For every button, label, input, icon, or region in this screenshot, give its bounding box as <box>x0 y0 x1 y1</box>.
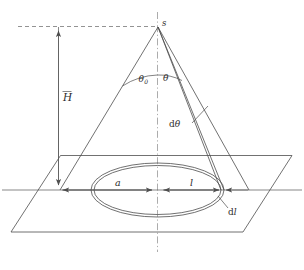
dtheta-label: dθ <box>169 119 181 129</box>
cone-right-generator <box>158 27 249 190</box>
figure-root: s θ0 θ H dθ a l dl <box>0 0 304 270</box>
ground-plane-parallelogram <box>11 156 292 233</box>
radius-dl-label: dl <box>228 207 237 217</box>
radius-l-label: l <box>190 177 193 188</box>
dl-leader-line <box>218 196 228 208</box>
dtheta-theta-glyph: θ <box>175 119 181 129</box>
height-label-group: H <box>62 91 73 103</box>
theta-label: θ <box>163 73 169 83</box>
theta0-subscript: 0 <box>144 78 148 85</box>
figure-caption <box>0 263 304 270</box>
dl-l-glyph: l <box>234 207 237 217</box>
cone-annulus-diagram: s θ0 θ H dθ a l dl <box>0 0 304 270</box>
dtheta-leader-line <box>192 106 208 123</box>
cone-left-generator <box>60 27 158 190</box>
height-label: H <box>62 91 73 103</box>
theta0-label: θ0 <box>139 74 149 86</box>
apex-label: s <box>162 18 167 28</box>
radius-a-label: a <box>115 177 121 188</box>
